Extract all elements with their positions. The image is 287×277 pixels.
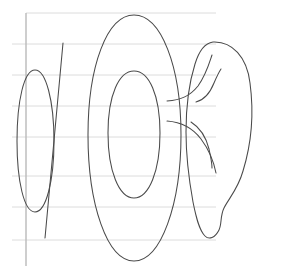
center-outer-ellipse: large outer ellipse of the central torus [88,15,181,261]
lower-neck-inner-curve: short inner fold of the lower neck [191,122,212,168]
upper-neck-curve: upper tube curve joining central torus t… [167,55,212,101]
left-small-ellipse: narrow vertical ellipse at far left [17,70,54,212]
ruled-paper-lines [12,13,216,266]
upper-neck-inner-curve: short inner fold of the upper neck [196,69,221,102]
center-inner-ellipse: inner hole ellipse of the central torus [108,71,160,198]
figure-canvas: narrow vertical ellipse at far leftlong … [0,0,287,277]
diagonal-slash-line: long straight stroke crossing the left e… [45,43,63,238]
drawing-strokes: narrow vertical ellipse at far leftlong … [17,15,252,261]
surface-drawing: narrow vertical ellipse at far leftlong … [0,0,287,277]
right-blob-outline: irregular blob forming the right handle … [186,42,252,238]
